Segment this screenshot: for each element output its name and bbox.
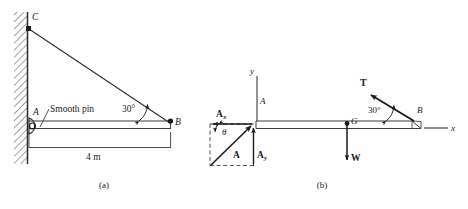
smooth-pin-support — [29, 118, 36, 134]
label-dimension-4m: 4 m — [86, 152, 101, 162]
label-axis-y: y — [249, 66, 254, 76]
figure-container: C A Smooth pin 30° B — [0, 0, 468, 209]
point-c-marker — [26, 26, 31, 31]
label-angle-30-a: 30° — [122, 104, 136, 114]
label-point-a-b: A — [259, 96, 266, 106]
label-point-b-b: B — [417, 105, 423, 115]
label-force-ay: Ay — [257, 150, 268, 161]
angle-indicator-theta — [215, 124, 219, 132]
figure-svg: C A Smooth pin 30° B — [0, 0, 468, 209]
label-angle-theta: θ — [222, 127, 227, 137]
label-force-tension: T — [360, 77, 367, 88]
beam-ab — [29, 121, 171, 129]
point-b-marker-a — [168, 118, 173, 123]
label-point-a-a: A — [32, 107, 39, 117]
dimension-line-4m — [29, 132, 171, 148]
wall-support-a — [14, 12, 28, 164]
label-smooth-pin: Smooth pin — [50, 104, 94, 114]
caption-a: (a) — [82, 180, 126, 190]
label-angle-30-b: 30° — [368, 105, 381, 115]
force-vector-a-resultant — [211, 126, 251, 165]
label-force-a-resultant: A — [233, 150, 240, 160]
label-force-ax: Ax — [216, 109, 227, 120]
label-force-weight: W — [351, 153, 361, 163]
label-point-c: C — [32, 12, 39, 22]
label-axis-x: x — [450, 123, 455, 133]
smooth-pin-leader — [40, 109, 49, 127]
label-point-g: G — [351, 116, 358, 126]
beam-body-fbd — [256, 121, 421, 129]
label-point-b-a: B — [175, 117, 181, 127]
caption-b: (b) — [300, 180, 344, 190]
